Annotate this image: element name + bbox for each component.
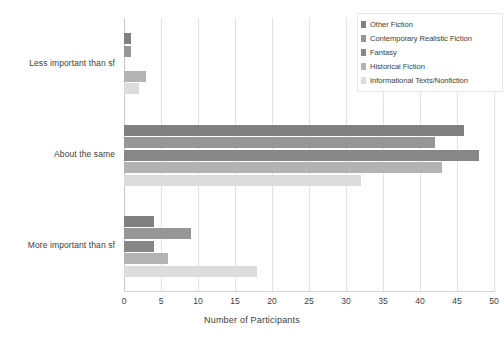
bar (124, 162, 442, 173)
legend-item: Other Fiction (361, 17, 500, 31)
bar (124, 150, 479, 161)
legend-item: Historical Fiction (361, 59, 500, 73)
bar (124, 253, 168, 264)
x-tick-label: 50 (479, 296, 504, 306)
x-tick-label: 5 (146, 296, 176, 306)
legend-swatch-icon (361, 35, 366, 42)
x-tick-label: 20 (257, 296, 287, 306)
legend-item: Informational Texts/Nonfiction (361, 73, 500, 87)
bar (124, 266, 257, 277)
legend-item: Fantasy (361, 45, 500, 59)
legend-swatch-icon (361, 21, 366, 28)
legend-swatch-icon (361, 63, 366, 70)
legend-swatch-icon (361, 77, 366, 84)
bar (124, 71, 146, 82)
x-axis-title: Number of Participants (0, 315, 504, 325)
x-tick-label: 40 (405, 296, 435, 306)
legend-label: Informational Texts/Nonfiction (370, 76, 468, 85)
y-axis-label: Less important than sf (0, 58, 115, 68)
legend-label: Historical Fiction (370, 62, 425, 71)
y-axis-label: More important than sf (0, 240, 115, 250)
chart-legend: Other FictionContemporary Realistic Fict… (357, 13, 503, 92)
bar (124, 241, 154, 252)
x-axis-line (124, 291, 494, 292)
bar (124, 125, 464, 136)
x-tick-label: 45 (442, 296, 472, 306)
x-tick-label: 0 (109, 296, 139, 306)
legend-swatch-icon (361, 49, 366, 56)
bar (124, 33, 131, 44)
legend-label: Fantasy (370, 48, 397, 57)
x-tick-label: 35 (368, 296, 398, 306)
x-tick-label: 10 (183, 296, 213, 306)
bar (124, 228, 191, 239)
legend-item: Contemporary Realistic Fiction (361, 31, 500, 45)
x-tick-label: 15 (220, 296, 250, 306)
bar (124, 216, 154, 227)
bar (124, 83, 139, 94)
x-tick-label: 30 (331, 296, 361, 306)
bar (124, 175, 361, 186)
x-tick-label: 25 (294, 296, 324, 306)
legend-label: Contemporary Realistic Fiction (370, 34, 472, 43)
bar (124, 137, 435, 148)
bar (124, 46, 131, 57)
bar-chart: Less important than sfAbout the sameMore… (0, 0, 504, 341)
y-axis-label: About the same (0, 149, 115, 159)
legend-label: Other Fiction (370, 20, 413, 29)
